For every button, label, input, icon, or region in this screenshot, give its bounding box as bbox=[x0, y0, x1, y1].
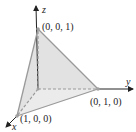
y-axis-label: y bbox=[125, 76, 131, 87]
vertex-y bbox=[96, 87, 100, 91]
x-intercept-label: (1, 0, 0) bbox=[20, 113, 52, 125]
tetrahedron-diagram: z y x (0, 0, 1) (0, 1, 0) (1, 0, 0) bbox=[0, 0, 136, 132]
y-intercept-label: (0, 1, 0) bbox=[90, 96, 122, 108]
vertex-z bbox=[36, 27, 40, 31]
vertex-x bbox=[15, 114, 19, 118]
x-axis-label: x bbox=[11, 121, 17, 132]
z-intercept-label: (0, 0, 1) bbox=[42, 21, 74, 33]
z-axis-label: z bbox=[41, 4, 46, 15]
vertex-origin bbox=[37, 88, 40, 91]
